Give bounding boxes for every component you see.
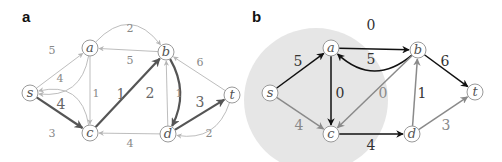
node-a-b: b <box>158 44 174 60</box>
edge-weight-b-d-t: 3 <box>442 117 451 133</box>
panel-a: a 54251431216324 sabcdt <box>22 8 240 150</box>
node-label: s <box>27 85 34 100</box>
node-label: c <box>327 126 335 141</box>
edge-weight-b-s-c: 4 <box>295 117 304 133</box>
edge-weight-a-c-b: 1 <box>117 86 126 102</box>
edge-weight-a-d-c: 4 <box>127 137 134 150</box>
edge-a-d-c <box>99 133 160 134</box>
edge-weight-b-b-a: 0 <box>367 17 376 33</box>
edge-weight-a-s-a: 4 <box>57 72 64 85</box>
edge-weight-a-a-s: 5 <box>49 44 56 57</box>
edge-weight-a-a-b: 2 <box>127 22 134 35</box>
edge-weight-a-a-c: 1 <box>93 87 100 100</box>
node-label: d <box>164 126 172 141</box>
node-label: a <box>86 40 94 55</box>
node-label: c <box>86 125 94 140</box>
edge-a-d-b <box>166 61 168 126</box>
node-b-a: a <box>323 40 339 56</box>
node-label: d <box>408 126 416 141</box>
node-b-c: c <box>323 126 339 142</box>
node-label: b <box>414 42 422 57</box>
node-b-b: b <box>410 42 426 58</box>
edge-weight-b-d-b: 1 <box>418 85 427 101</box>
edge-weight-b-b-t: 6 <box>441 53 450 69</box>
edge-weight-a-b-d: 2 <box>146 85 155 101</box>
panel-label-b: b <box>252 8 261 25</box>
node-a-c: c <box>82 125 98 141</box>
node-a-t: t <box>224 87 240 103</box>
node-a-s: s <box>22 85 38 101</box>
edge-weight-a-c-s: 3 <box>49 127 56 140</box>
edge-weight-a-t-d: 2 <box>206 127 213 140</box>
edge-weight-b-c-d: 4 <box>367 137 376 153</box>
edge-weight-a-b-a: 5 <box>127 54 134 67</box>
panel-b: b 5450006413 sabcdt <box>244 8 483 162</box>
edge-weight-b-a-b: 5 <box>367 51 376 67</box>
figure: a 54251431216324 sabcdt b 5450006413 sab… <box>0 0 502 162</box>
node-label: a <box>327 40 335 55</box>
edge-weight-a-t-b: 6 <box>197 56 204 69</box>
node-b-s: s <box>262 85 278 101</box>
edge-a-a-s <box>39 56 89 95</box>
edge-a-b-a <box>99 48 158 51</box>
node-label: s <box>267 85 274 100</box>
panel-label-a: a <box>22 8 31 25</box>
node-label: t <box>229 87 235 102</box>
edge-weight-b-b-c: 0 <box>379 85 388 101</box>
edge-weight-b-s-a: 5 <box>294 53 303 69</box>
node-b-t: t <box>467 84 483 100</box>
edge-weight-a-d-t: 3 <box>196 94 205 110</box>
node-a-d: d <box>160 126 176 142</box>
node-a-a: a <box>82 40 98 56</box>
node-label: t <box>472 84 478 99</box>
edge-weight-b-a-c: 0 <box>336 85 345 101</box>
edge-weight-a-d-b: 1 <box>176 87 183 100</box>
node-b-d: d <box>404 126 420 142</box>
node-label: b <box>162 44 170 59</box>
edge-weight-a-s-c: 4 <box>57 96 66 112</box>
